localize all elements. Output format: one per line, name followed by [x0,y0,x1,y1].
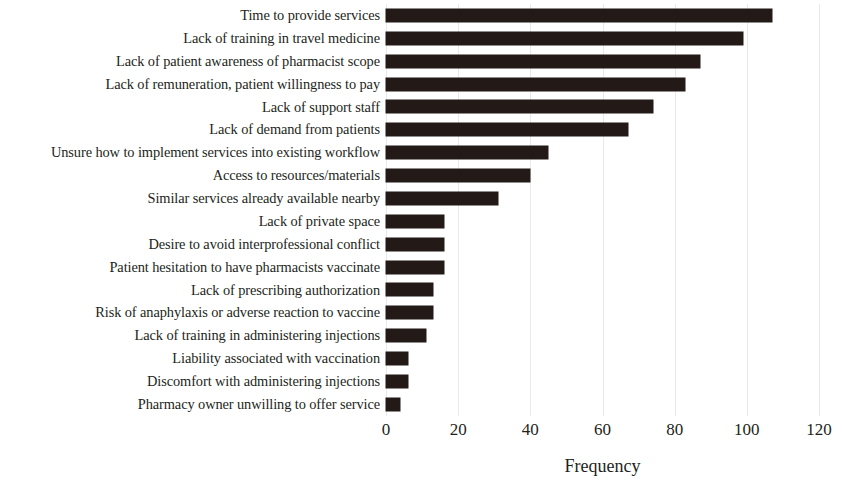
bar [386,306,433,319]
bar [386,146,548,159]
x-tick-label: 0 [382,420,391,440]
category-label: Similar services already available nearb… [0,187,380,210]
plot-area [386,4,819,416]
x-tick-label: 60 [594,420,611,440]
category-label: Liability associated with vaccination [0,347,380,370]
bar [386,352,408,365]
category-label: Lack of remuneration, patient willingnes… [0,73,380,96]
bar-row [386,141,819,164]
category-label: Lack of training in travel medicine [0,27,380,50]
bar [386,238,444,251]
bar-row [386,279,819,302]
gridline [819,4,820,416]
bar [386,283,433,296]
category-label: Time to provide services [0,4,380,27]
bar [386,375,408,388]
x-tick-label: 120 [806,420,832,440]
bar [386,329,426,342]
bar [386,100,653,113]
category-label: Lack of private space [0,210,380,233]
x-tick-label: 100 [734,420,760,440]
bar-row [386,96,819,119]
x-tick-label: 40 [522,420,539,440]
x-axis-title: Frequency [386,456,819,477]
bar-row [386,256,819,279]
bar-row [386,118,819,141]
bar-row [386,233,819,256]
bar-row [386,73,819,96]
category-axis-labels: Time to provide servicesLack of training… [0,4,380,416]
bar-row [386,187,819,210]
category-label: Risk of anaphylaxis or adverse reaction … [0,301,380,324]
category-label: Lack of prescribing authorization [0,279,380,302]
category-label: Patient hesitation to have pharmacists v… [0,256,380,279]
bar-row [386,210,819,233]
x-tick-label: 20 [450,420,467,440]
x-axis-ticks: 020406080100120 [386,420,819,446]
bar-row [386,370,819,393]
category-label: Lack of support staff [0,96,380,119]
bar-row [386,347,819,370]
bar [386,123,628,136]
bar [386,398,400,411]
bar [386,169,530,182]
category-label: Access to resources/materials [0,164,380,187]
category-label: Lack of training in administering inject… [0,324,380,347]
category-label: Pharmacy owner unwilling to offer servic… [0,393,380,416]
x-tick-label: 80 [666,420,683,440]
bar-row [386,50,819,73]
bar-rows [386,4,819,416]
category-label: Discomfort with administering injections [0,370,380,393]
bar-row [386,324,819,347]
bar [386,78,685,91]
bar-row [386,164,819,187]
bar [386,192,498,205]
bar-chart: Time to provide servicesLack of training… [0,0,842,486]
bar-row [386,27,819,50]
category-label: Unsure how to implement services into ex… [0,141,380,164]
bar [386,215,444,228]
bar-row [386,301,819,324]
bar [386,261,444,274]
category-label: Lack of demand from patients [0,118,380,141]
bar [386,32,743,45]
bar [386,9,772,22]
category-label: Lack of patient awareness of pharmacist … [0,50,380,73]
bar-row [386,4,819,27]
category-label: Desire to avoid interprofessional confli… [0,233,380,256]
bar-row [386,393,819,416]
bar [386,55,700,68]
